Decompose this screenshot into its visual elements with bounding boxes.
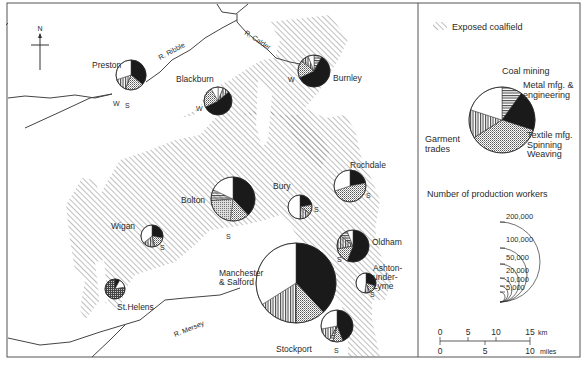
town-blackburn: BlackburnW: [176, 74, 232, 115]
scale-mile-tick: 5: [483, 346, 488, 356]
legend: Exposed coalfield Coal miningMetal mfg. …: [425, 22, 574, 356]
town-label: & Salford: [219, 277, 254, 287]
pie-slice-other: [321, 310, 337, 329]
pie-annotation: S: [314, 206, 319, 213]
legend-category-garment: Garment: [425, 134, 461, 144]
river-ribble-estuary: [25, 94, 112, 128]
size-label: 50,000: [506, 253, 529, 262]
pie-annotation: S: [337, 256, 342, 263]
river-headwaters: [217, 4, 248, 14]
pie-annotation: W: [113, 100, 120, 107]
town-label: Wigan: [111, 221, 135, 231]
pie-annotation: W: [196, 105, 203, 112]
legend-category-garment: trades: [425, 144, 451, 154]
pie-annotation: S: [370, 291, 375, 298]
scale-mile-unit: miles: [540, 348, 557, 355]
town-label: St.Helens: [117, 302, 154, 312]
legend-category-coal: Coal mining: [502, 66, 550, 76]
scale-km-tick: 0: [438, 327, 443, 337]
pie-annotation: S: [125, 102, 130, 109]
scale-mile-tick: 0: [438, 346, 443, 356]
scale-km-tick: 5: [466, 327, 471, 337]
size-legend-title: Number of production workers: [427, 189, 548, 199]
size-label: 20,000: [506, 266, 529, 275]
town-label: Blackburn: [176, 74, 214, 84]
coalfield-label: Exposed coalfield: [452, 22, 523, 32]
river-label: R. Calder: [243, 29, 272, 51]
scale-bar: 051015km0510miles: [438, 327, 557, 356]
scale-km-tick: 15: [525, 327, 535, 337]
town-manchester-salford: Manchester& Salford: [219, 243, 336, 323]
map-canvas: N R. RibbleR. CalderR. Mersey PrestonWSB…: [0, 0, 588, 385]
legend-category-metal: engineering: [523, 90, 570, 100]
pie-annotation: S: [160, 244, 165, 251]
town-label: Lyme: [373, 281, 394, 291]
legend-category-textile: Spinning: [527, 140, 562, 150]
river-ribble: [146, 20, 237, 82]
town-label: Preston: [92, 60, 122, 70]
pie-annotation: S: [366, 192, 371, 199]
river-label: R. Mersey: [173, 319, 206, 339]
scale-km-tick: 10: [491, 327, 501, 337]
legend-category-textile: Weaving: [527, 149, 562, 159]
river-mersey: [8, 288, 240, 345]
town-label: Stockport: [276, 344, 313, 354]
town-label: Bury: [273, 181, 291, 191]
town-label: Burnley: [333, 73, 363, 83]
size-label: 200,000: [506, 212, 533, 221]
town-preston: PrestonWS: [92, 60, 146, 109]
pie-annotation: W: [288, 76, 295, 83]
town-label: Bolton: [181, 195, 205, 205]
river-label: R. Ribble: [157, 41, 186, 61]
pie-annotation: S: [334, 347, 339, 354]
coalfield-industry-map: N R. RibbleR. CalderR. Mersey PrestonWSB…: [0, 0, 588, 385]
size-legend: 200,000100,00050,00020,00010,0005,000: [500, 212, 540, 302]
north-arrow: N: [31, 25, 49, 70]
river-ribble-lower: [8, 94, 112, 98]
town-label: Oldham: [372, 237, 402, 247]
size-label: 5,000: [506, 283, 525, 292]
town-label: Rochdale: [350, 160, 386, 170]
north-label: N: [37, 25, 42, 32]
town-st-helens: St.Helens: [105, 279, 154, 312]
size-label: 100,000: [506, 235, 533, 244]
coalfield-swatch: [433, 22, 447, 30]
scale-km-unit: km: [538, 329, 548, 336]
legend-category-metal: Metal mfg. &: [523, 80, 574, 90]
scale-mile-tick: 10: [525, 346, 535, 356]
pie-annotation: S: [226, 233, 231, 240]
legend-category-textile: Textile mfg.: [527, 130, 573, 140]
